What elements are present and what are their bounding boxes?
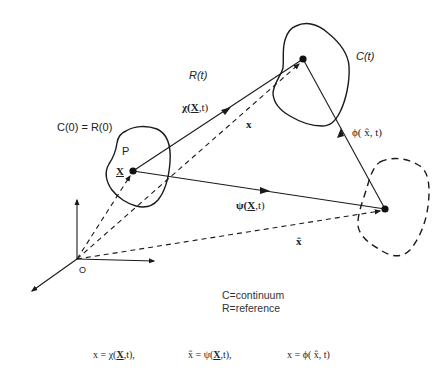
- material-points: [129, 55, 388, 212]
- label-c0-r0: C(0) = R(0): [57, 122, 112, 133]
- point-current: [299, 55, 306, 62]
- equation-psi: x̂ = ψ(X,t),: [188, 350, 232, 360]
- label-origin: O: [79, 266, 86, 275]
- mapping-vectors: [133, 59, 385, 209]
- label-point-p: P: [122, 146, 129, 157]
- intermediate-configuration-blob: [358, 159, 429, 256]
- legend: C=continuum R=reference: [222, 289, 284, 315]
- label-ct: C(t): [356, 51, 374, 62]
- label-psi: ψ(X,t): [236, 200, 265, 211]
- label-x: x: [246, 119, 252, 130]
- equation-chi: x = χ(X,t),: [93, 350, 135, 360]
- label-X: X: [116, 166, 124, 177]
- equation-phi: x = ϕ( x̂, t): [287, 350, 330, 360]
- legend-continuum: C=continuum: [222, 289, 284, 302]
- mid-arrowheads: [221, 107, 344, 194]
- label-chi: χ(X,t): [182, 102, 208, 113]
- position-vectors: [77, 64, 380, 259]
- label-rt: R(t): [189, 70, 207, 81]
- legend-reference: R=reference: [222, 302, 284, 315]
- point-intermediate: [381, 205, 388, 212]
- label-xhat: x̂: [296, 236, 302, 247]
- label-phi: ϕ( x̂, t): [352, 127, 382, 138]
- chi-mapping-line: [133, 59, 303, 171]
- kinematics-diagram: [0, 0, 447, 375]
- point-P: [129, 167, 136, 174]
